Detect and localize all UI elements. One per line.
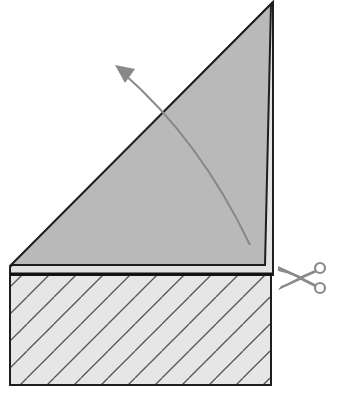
diagram-canvas bbox=[0, 0, 343, 406]
paper-folding-diagram bbox=[0, 0, 343, 406]
folded-triangle bbox=[11, 4, 271, 265]
scissors-icon bbox=[278, 263, 325, 293]
excess-strip bbox=[10, 274, 272, 385]
hatch-pattern bbox=[10, 275, 271, 385]
triangle-shape bbox=[11, 4, 271, 265]
